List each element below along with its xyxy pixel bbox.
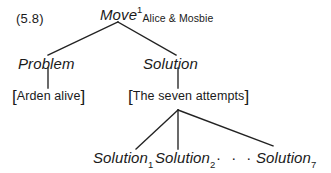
node-arden-alive-label: Arden alive [17,89,81,103]
equation-number-label: (5.8) [16,12,44,25]
node-solution-1-subscript: 1 [148,159,153,170]
node-solution-7-label: Solution [256,149,311,166]
ellipsis-separator: · · · [216,150,254,165]
node-root-subscript: Alice & Mosbie [142,13,213,24]
node-solution-2: Solution2 [155,150,215,165]
node-solution-1: Solution1 [93,150,153,165]
node-solution-2-subscript: 2 [210,159,215,170]
node-solution: Solution [143,56,198,71]
node-solution-1-label: Solution [93,149,148,166]
tree-edges-canvas [0,0,331,173]
node-solution-7-subscript: 7 [311,159,316,170]
edge-root-to-solution [118,22,176,55]
node-root-label: Move [100,6,137,23]
node-solution-7: Solution7 [256,150,316,165]
close-bracket-icon: ] [80,87,85,106]
edge-seven-attempts-to-solution-1 [136,110,178,149]
node-seven-attempts-label: The seven attempts [133,89,245,103]
node-problem: Problem [18,56,75,71]
node-arden-alive: [Arden alive] [12,90,85,103]
edge-seven-attempts-to-solution-7 [178,110,273,146]
node-root-move: Move1 Alice & Mosbie [100,7,142,22]
node-solution-2-label: Solution [155,149,210,166]
close-bracket-icon: ] [244,87,249,106]
node-seven-attempts: [The seven attempts] [128,90,249,103]
edge-root-to-problem [48,22,118,55]
